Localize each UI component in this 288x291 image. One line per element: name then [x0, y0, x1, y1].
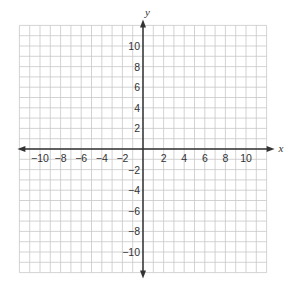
y-tick-label: −10 — [122, 246, 140, 258]
x-tick-label: −10 — [31, 152, 49, 164]
y-axis-down-arrow-icon — [140, 271, 146, 279]
y-tick-label: −4 — [128, 184, 140, 196]
y-tick-label: 8 — [134, 61, 140, 73]
y-axis-label: y — [144, 6, 150, 18]
x-tick-label: −4 — [96, 152, 108, 164]
x-tick-label: 2 — [161, 152, 167, 164]
x-tick-label: −8 — [55, 152, 67, 164]
coordinate-plane: −10−8−6−4−2246810 108642−2−4−6−8−10 x y — [0, 0, 288, 291]
x-tick-label: −6 — [75, 152, 87, 164]
y-tick-label: 6 — [134, 81, 140, 93]
y-axis-up-arrow-icon — [140, 19, 146, 27]
x-axis-label: x — [278, 142, 284, 154]
x-tick-label: −2 — [116, 152, 128, 164]
y-tick-label: −8 — [128, 225, 140, 237]
x-axis-tick-labels: −10−8−6−4−2246810 — [31, 152, 252, 164]
y-tick-label: −2 — [128, 164, 140, 176]
y-tick-label: −6 — [128, 205, 140, 217]
x-axis-right-arrow-icon — [267, 146, 275, 152]
y-tick-label: 2 — [134, 122, 140, 134]
x-tick-label: 4 — [181, 152, 187, 164]
y-tick-label: 10 — [128, 40, 140, 52]
x-axis-left-arrow-icon — [17, 146, 25, 152]
x-tick-label: 10 — [240, 152, 252, 164]
y-tick-label: 4 — [134, 102, 140, 114]
x-tick-label: 8 — [222, 152, 228, 164]
x-tick-label: 6 — [202, 152, 208, 164]
